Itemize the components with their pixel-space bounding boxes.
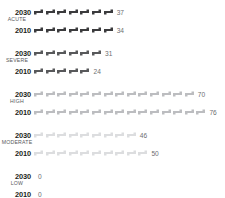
bed-icon (46, 49, 55, 57)
bed-icon (80, 26, 89, 34)
bed-icon (57, 67, 66, 75)
icon-strip (34, 108, 208, 116)
value-label: 24 (93, 68, 100, 75)
bed-icon (92, 108, 101, 116)
bed-icon (34, 67, 43, 75)
bed-icon (150, 108, 159, 116)
category-label: HIGH (0, 98, 34, 105)
value-label: 76 (209, 109, 216, 116)
bed-icon (196, 108, 205, 116)
bed-icon (69, 49, 78, 57)
bed-icon (138, 90, 147, 98)
bed-icon (104, 90, 113, 98)
bed-icon (80, 49, 89, 57)
category-group: SEVERE203031201024 (0, 44, 225, 80)
bed-icon (92, 90, 101, 98)
value-label: 46 (140, 132, 147, 139)
bed-icon (57, 149, 66, 157)
bed-icon (34, 131, 43, 139)
bed-icon (162, 108, 171, 116)
bed-icon (115, 131, 124, 139)
value-label: 70 (198, 91, 205, 98)
bed-icon (127, 149, 136, 157)
icon-strip (34, 49, 104, 57)
bed-icon (150, 90, 159, 98)
bed-icon (46, 90, 55, 98)
bed-icon (173, 90, 182, 98)
bed-icon (57, 8, 66, 16)
bed-icon (80, 90, 89, 98)
bed-icon (34, 108, 43, 116)
bed-icon (80, 131, 89, 139)
icon-strip (34, 90, 196, 98)
year-label: 2010 (0, 67, 34, 76)
bed-icon (104, 131, 113, 139)
bed-icon (57, 108, 66, 116)
value-label: 0 (38, 191, 42, 198)
data-row: 201034 (0, 21, 225, 39)
bed-icon (46, 26, 55, 34)
bed-icon (57, 49, 66, 57)
icon-strip (34, 149, 150, 157)
bed-icon (69, 90, 78, 98)
bed-icon (92, 149, 101, 157)
year-label: 2010 (0, 26, 34, 35)
bed-icon (46, 108, 55, 116)
year-label: 2010 (0, 149, 34, 158)
bed-icon (162, 90, 171, 98)
data-row: 201024 (0, 62, 225, 80)
icon-strip (34, 67, 92, 75)
bed-icon (46, 131, 55, 139)
icon-strip (34, 8, 115, 16)
bed-icon (104, 108, 113, 116)
bed-icon (185, 90, 194, 98)
bed-icon (57, 90, 66, 98)
value-label: 34 (117, 27, 124, 34)
bed-icon (138, 149, 147, 157)
data-row: 201050 (0, 144, 225, 162)
pictogram-chart: ACUTE203037201034SEVERE203031201024HIGH2… (0, 0, 225, 197)
category-group: LOW2030020100 (0, 167, 225, 197)
year-label: 2010 (0, 108, 34, 117)
year-label: 2010 (0, 190, 34, 198)
bed-icon (138, 108, 147, 116)
bed-icon (185, 108, 194, 116)
bed-icon (34, 26, 43, 34)
bed-icon (115, 90, 124, 98)
bed-icon (34, 49, 43, 57)
category-group: ACUTE203037201034 (0, 3, 225, 39)
bed-icon (173, 108, 182, 116)
bed-icon (80, 108, 89, 116)
bed-icon (46, 149, 55, 157)
bed-icon (34, 149, 43, 157)
bed-icon (80, 149, 89, 157)
category-label: LOW (0, 180, 34, 187)
bed-icon (104, 8, 113, 16)
icon-strip (34, 26, 115, 34)
bed-icon (104, 26, 113, 34)
bed-icon (69, 26, 78, 34)
bed-icon (69, 131, 78, 139)
bed-icon (69, 149, 78, 157)
value-label: 37 (117, 9, 124, 16)
bed-icon (69, 8, 78, 16)
bed-icon (92, 49, 101, 57)
category-label: SEVERE (0, 57, 34, 64)
bed-icon (80, 8, 89, 16)
data-row: 201076 (0, 103, 225, 121)
bed-icon (34, 90, 43, 98)
category-group: HIGH203070201076 (0, 85, 225, 121)
bed-icon (92, 26, 101, 34)
category-group: MODERATE203046201050 (0, 126, 225, 162)
bed-icon (104, 149, 113, 157)
bed-icon (46, 8, 55, 16)
value-label: 50 (151, 150, 158, 157)
bed-icon (115, 108, 124, 116)
category-label: ACUTE (0, 16, 34, 23)
bed-icon (34, 8, 43, 16)
bed-icon (69, 108, 78, 116)
bed-icon (69, 67, 78, 75)
icon-strip (34, 131, 138, 139)
bed-icon (115, 149, 124, 157)
value-label: 31 (105, 50, 112, 57)
